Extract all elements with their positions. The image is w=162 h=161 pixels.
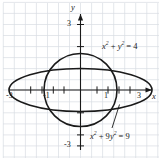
ellipse-eq-rhs: 9	[126, 131, 130, 141]
ellipse-eq-equals: =	[116, 131, 125, 141]
y-tick-label-3: 3	[67, 20, 71, 28]
graph-canvas	[0, 0, 162, 161]
x-tick-label-3: 3	[137, 92, 141, 100]
circle-eq-equals: =	[124, 41, 133, 51]
y-axis-arrow	[78, 14, 83, 21]
y-axis-label: y	[71, 3, 75, 12]
circle-equation-label: x2 + y2 = 4	[102, 41, 138, 50]
x-axis-label: x	[152, 92, 156, 101]
circle-eq-rhs: 4	[133, 41, 137, 51]
x-tick-label-1: 1	[104, 92, 108, 100]
math-figure: y x 3 -3 -3 -1 1 3 x2 + y2 = 4 x2 + 9y2 …	[0, 0, 162, 161]
y-tick-label-neg3: -3	[64, 141, 71, 149]
axis-lines	[9, 14, 152, 150]
x-tick-label-neg1: -1	[43, 92, 50, 100]
ellipse-eq-plus: + 9	[97, 131, 110, 141]
circle-eq-plus: +	[109, 41, 118, 51]
x-tick-label-neg3: -3	[6, 92, 13, 100]
ellipse-equation-label: x2 + 9y2 = 9	[90, 131, 130, 140]
